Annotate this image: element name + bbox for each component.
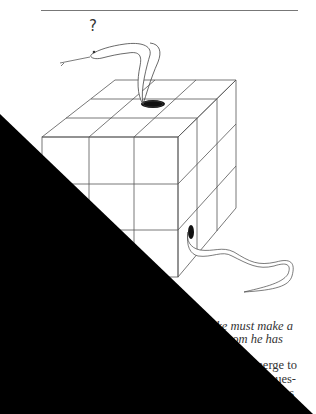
document-page: ? ake must make a om he has merge to ues… xyxy=(0,0,316,414)
black-redaction-triangle xyxy=(0,0,316,414)
